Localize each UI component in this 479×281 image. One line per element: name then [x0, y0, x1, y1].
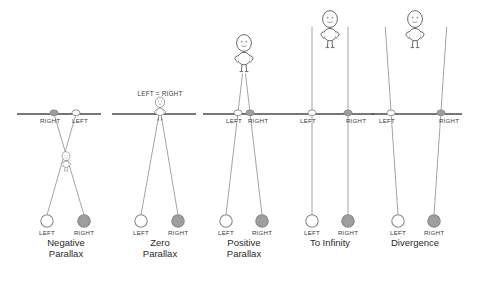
- caption-line-1: Negative: [47, 237, 85, 248]
- left-eye-circle-to-infinity: [306, 215, 318, 227]
- eye-label-right-zero-parallax: RIGHT: [168, 229, 188, 236]
- panel-caption-positive-parallax: PositiveParallax: [194, 237, 294, 259]
- caption-line-2: Parallax: [143, 248, 177, 259]
- eye-label-right-divergence: RIGHT: [424, 229, 444, 236]
- screen-image-label-left-equals-right-zero-parallax: LEFT = RIGHT: [137, 90, 182, 97]
- screen-image-right-divergence: [437, 110, 445, 116]
- screen-image-label-right-divergence: RIGHT: [439, 117, 459, 124]
- right-eye-circle-positive-parallax: [256, 215, 268, 227]
- eye-label-left-to-infinity: LEFT: [304, 229, 320, 236]
- ray-left-eye: [141, 117, 159, 215]
- left-eye-circle-positive-parallax: [220, 215, 232, 227]
- screen-image-right-negative-parallax: [50, 110, 58, 116]
- viewed-object-figure-divergence: [406, 11, 424, 48]
- screen-image-left-divergence: [387, 110, 395, 116]
- eye-label-right-to-infinity: RIGHT: [338, 229, 358, 236]
- right-eye-circle-to-infinity: [342, 215, 354, 227]
- right-eye-circle-negative-parallax: [78, 215, 90, 227]
- right-eye-circle-zero-parallax: [172, 215, 184, 227]
- screen-image-left-positive-parallax: [234, 110, 242, 116]
- screen-image-left-negative-parallax: [72, 110, 80, 116]
- screen-image-label-right-negative-parallax: RIGHT: [40, 117, 60, 124]
- left-eye-circle-negative-parallax: [41, 215, 53, 227]
- panel-caption-negative-parallax: NegativeParallax: [16, 237, 116, 259]
- ray-left-eye: [226, 74, 242, 215]
- screen-image-label-left-to-infinity: LEFT: [300, 117, 316, 124]
- caption-line-1: Divergence: [391, 237, 439, 248]
- viewed-object-figure-positive-parallax: [235, 35, 253, 72]
- screen-image-label-left-positive-parallax: LEFT: [226, 117, 242, 124]
- screen-image-right-to-infinity: [344, 110, 352, 116]
- screen-image-label-right-to-infinity: RIGHT: [346, 117, 366, 124]
- diagram-canvas: NegativeParallax ZeroParallax PositivePa…: [0, 0, 479, 281]
- caption-line-1: Zero: [150, 237, 170, 248]
- eye-label-right-positive-parallax: RIGHT: [252, 229, 272, 236]
- caption-line-2: Parallax: [49, 248, 83, 259]
- eye-label-left-positive-parallax: LEFT: [218, 229, 234, 236]
- screen-image-right-positive-parallax: [246, 110, 254, 116]
- panel-zero-parallax: [112, 97, 196, 227]
- left-eye-circle-divergence: [392, 215, 404, 227]
- eye-label-left-zero-parallax: LEFT: [133, 229, 149, 236]
- eye-label-right-negative-parallax: RIGHT: [74, 229, 94, 236]
- eye-label-left-negative-parallax: LEFT: [39, 229, 55, 236]
- screen-image-label-left-negative-parallax: LEFT: [72, 117, 88, 124]
- caption-line-2: Parallax: [227, 248, 261, 259]
- caption-line-1: Positive: [227, 237, 260, 248]
- screen-image-label-right-positive-parallax: RIGHT: [248, 117, 268, 124]
- panel-caption-divergence: Divergence: [365, 237, 465, 248]
- ray-right-eye: [162, 117, 179, 215]
- viewed-object-figure-to-infinity: [321, 11, 339, 48]
- right-eye-circle-divergence: [428, 215, 440, 227]
- left-eye-circle-zero-parallax: [135, 215, 147, 227]
- panel-negative-parallax: [17, 110, 101, 227]
- viewed-object-figure-zero-parallax: [154, 97, 165, 120]
- ray-left-eye: [47, 110, 77, 215]
- screen-image-label-left-divergence: LEFT: [379, 117, 395, 124]
- ray-right-eye: [246, 74, 262, 215]
- eye-label-left-divergence: LEFT: [390, 229, 406, 236]
- screen-image-left-to-infinity: [308, 110, 316, 116]
- caption-line-1: To Infinity: [310, 237, 350, 248]
- panel-positive-parallax: [203, 35, 288, 228]
